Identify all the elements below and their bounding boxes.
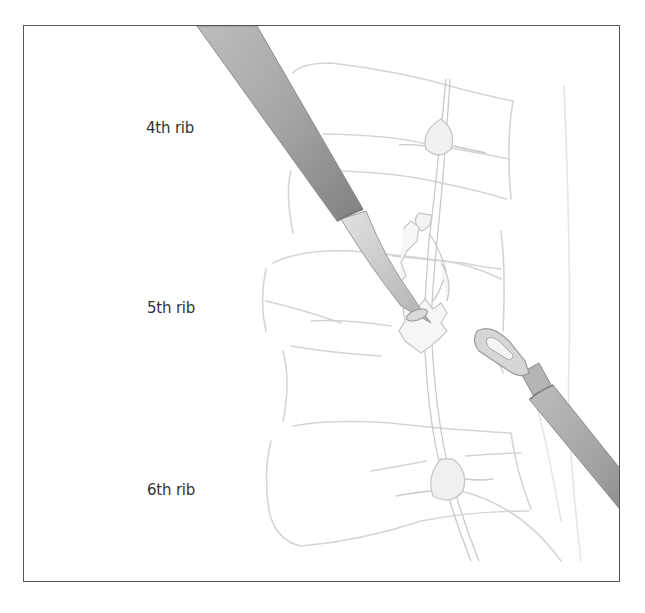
hook-probe-instrument xyxy=(474,329,620,541)
label-4th-rib: 4th rib xyxy=(146,119,194,137)
label-6th-rib: 6th rib xyxy=(147,481,195,499)
thoracoscopic-sympathectomy-illustration xyxy=(24,26,620,582)
figure-frame: 4th rib 5th rib 6th rib xyxy=(23,25,620,582)
label-5th-rib: 5th rib xyxy=(147,299,195,317)
